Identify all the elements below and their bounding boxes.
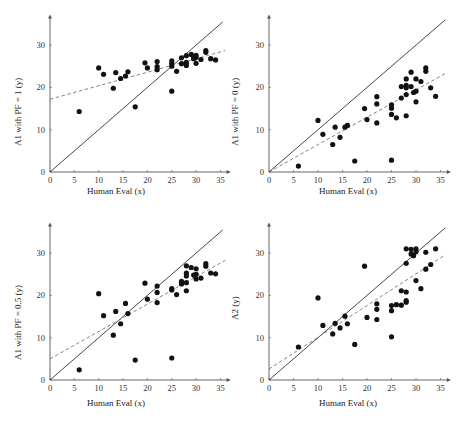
data-point: [413, 89, 418, 94]
data-point: [179, 55, 184, 60]
data-point: [423, 267, 428, 272]
y-tick-label: 20: [256, 82, 265, 92]
y-tick-label: 10: [256, 125, 265, 135]
data-point: [418, 286, 423, 291]
data-point: [213, 57, 218, 62]
x-axis-arrow-icon: [227, 170, 231, 174]
data-point: [320, 132, 325, 137]
scatter-plot-a1-pf-05: 051015202530350102030: [0, 212, 232, 424]
identity-line: [50, 22, 223, 172]
x-tick-label: 35: [436, 175, 445, 185]
data-point: [101, 72, 106, 77]
scatter-plot-a2: 051015202530350102030: [232, 212, 463, 424]
data-point: [179, 281, 184, 286]
data-point: [404, 261, 409, 266]
data-point: [77, 109, 82, 114]
y-tick-label: 10: [37, 333, 46, 343]
data-point: [399, 288, 404, 293]
data-point: [433, 246, 438, 251]
data-point: [333, 125, 338, 130]
data-point: [374, 301, 379, 306]
data-point: [155, 67, 160, 72]
data-point: [404, 85, 409, 90]
x-tick-label: 25: [168, 175, 177, 185]
data-point: [399, 95, 404, 100]
x-tick-label: 15: [338, 383, 347, 393]
data-point: [399, 84, 404, 89]
x-tick-label: 10: [94, 383, 103, 393]
data-point: [418, 79, 423, 84]
x-tick-label: 30: [192, 175, 201, 185]
data-point: [399, 303, 404, 308]
scatter-plot-grid: 051015202530350102030 A1 with PF = 1 (y)…: [0, 0, 463, 424]
regression-line: [50, 260, 225, 359]
data-point: [118, 321, 123, 326]
scatter-plot-a1-pf-1: 051015202530350102030: [0, 0, 232, 212]
data-point: [345, 321, 350, 326]
data-point: [413, 249, 418, 254]
data-point: [213, 271, 218, 276]
x-tick-label: 35: [436, 383, 445, 393]
data-point: [352, 342, 357, 347]
x-axis-arrow-icon: [447, 378, 451, 382]
identity-line: [50, 230, 223, 380]
data-point: [142, 281, 147, 286]
data-point: [413, 99, 418, 104]
data-point: [423, 69, 428, 74]
data-point: [125, 69, 130, 74]
panel-a1-pf-05: 051015202530350102030 A1 with PF = 0.5 (…: [0, 212, 232, 424]
data-point: [433, 94, 438, 99]
y-tick-label: 20: [37, 290, 46, 300]
data-point: [184, 288, 189, 293]
y-axis-label: A1 with PF = 1 (y): [13, 78, 23, 146]
data-point: [113, 309, 118, 314]
data-point: [96, 291, 101, 296]
data-point: [169, 64, 174, 69]
x-tick-label: 25: [168, 383, 177, 393]
data-point: [409, 84, 414, 89]
data-point: [296, 344, 301, 349]
data-point: [155, 300, 160, 305]
panel-a2: 051015202530350102030 A2 (y) Human Eval …: [232, 212, 463, 424]
x-tick-label: 10: [314, 175, 323, 185]
data-point: [374, 101, 379, 106]
data-point: [145, 297, 150, 302]
data-point: [330, 331, 335, 336]
data-point: [389, 158, 394, 163]
x-tick-label: 10: [94, 175, 103, 185]
regression-line: [269, 73, 445, 172]
x-tick-label: 25: [387, 383, 396, 393]
regression-line: [269, 255, 445, 369]
x-tick-label: 20: [363, 383, 372, 393]
x-tick-label: 30: [192, 383, 201, 393]
data-point: [198, 275, 203, 280]
data-point: [315, 295, 320, 300]
data-point: [409, 70, 414, 75]
data-point: [184, 273, 189, 278]
y-tick-label: 20: [256, 290, 265, 300]
data-point: [404, 76, 409, 81]
data-point: [352, 158, 357, 163]
x-axis-label: Human Eval (x): [232, 398, 463, 408]
x-tick-label: 15: [338, 175, 347, 185]
data-point: [118, 76, 123, 81]
x-tick-label: 0: [267, 175, 271, 185]
data-point: [133, 104, 138, 109]
x-tick-label: 5: [72, 383, 76, 393]
data-point: [194, 61, 199, 66]
data-point: [113, 70, 118, 75]
y-tick-label: 30: [256, 40, 265, 50]
x-axis-arrow-icon: [227, 378, 231, 382]
data-point: [362, 264, 367, 269]
data-point: [320, 323, 325, 328]
x-axis-label: Human Eval (x): [232, 186, 463, 196]
y-tick-label: 10: [256, 333, 265, 343]
data-point: [194, 272, 199, 277]
data-point: [198, 57, 203, 62]
x-tick-label: 0: [267, 383, 271, 393]
y-axis-label: A1 with PF = 0.5 (y): [13, 285, 23, 360]
x-tick-label: 15: [119, 383, 128, 393]
data-point: [203, 264, 208, 269]
data-point: [155, 290, 160, 295]
y-tick-label: 0: [41, 375, 45, 385]
